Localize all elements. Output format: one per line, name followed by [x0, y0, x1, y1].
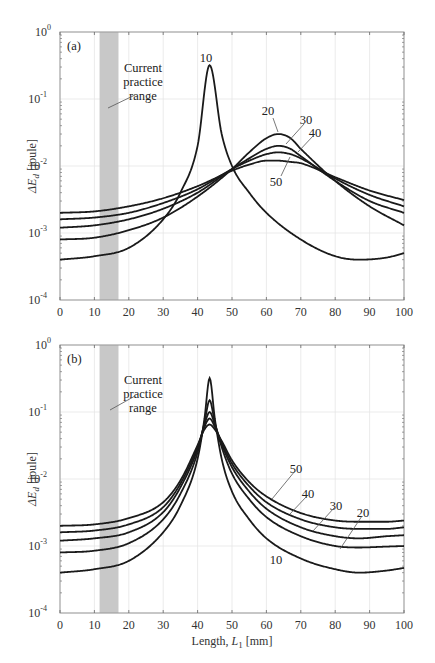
x-tick-label: 0 [57, 305, 63, 319]
series-label-leader [273, 118, 278, 132]
x-tick-label: 100 [395, 305, 413, 319]
current-practice-range-band [100, 345, 119, 613]
x-tick-label: 50 [226, 305, 238, 319]
x-tick-label: 30 [157, 305, 169, 319]
series-label-leader [286, 124, 304, 144]
y-tick-label: 10-3 [28, 537, 47, 553]
y-tick-label: 100 [35, 23, 51, 39]
x-tick-label: 0 [57, 618, 63, 632]
y-tick-label: 10-4 [28, 604, 47, 620]
x-tick-label: 20 [123, 305, 135, 319]
panel-label: (b) [67, 352, 82, 366]
x-tick-label: 90 [364, 305, 376, 319]
series-label-20: 20 [357, 506, 370, 520]
panel-label: (a) [67, 39, 81, 53]
series-label-leader [298, 136, 313, 152]
series-label-40: 40 [309, 126, 322, 140]
series-label-20: 20 [262, 104, 275, 118]
series-label-leader [290, 496, 307, 514]
x-tick-label: 10 [88, 305, 100, 319]
shaded-region-label: Current [124, 61, 163, 75]
x-tick-label: 40 [192, 305, 204, 319]
series-label-40: 40 [302, 487, 315, 501]
x-tick-label: 60 [260, 305, 272, 319]
series-label-10: 10 [200, 51, 213, 65]
series-label-leader [281, 157, 290, 176]
x-axis-label: Length, L1 [mm] [192, 634, 273, 650]
x-tick-label: 60 [260, 618, 272, 632]
y-axis-label: ΔEd [joule] [25, 452, 41, 507]
series-label-50: 50 [290, 462, 303, 476]
x-tick-label: 30 [157, 618, 169, 632]
y-tick-label: 10-1 [28, 90, 47, 106]
shaded-region-label: Current [124, 373, 163, 387]
x-tick-label: 70 [295, 305, 307, 319]
x-tick-label: 20 [123, 618, 135, 632]
series-label-leader [272, 471, 295, 499]
y-tick-label: 10-3 [28, 224, 47, 240]
figure: 010203040506070809010010010-110-210-310-… [0, 0, 435, 663]
y-axis-label: ΔEd [joule] [25, 139, 41, 194]
x-tick-label: 80 [329, 618, 341, 632]
current-practice-range-band [100, 32, 119, 300]
series-label-10: 10 [270, 553, 283, 567]
y-tick-label: 10-1 [28, 403, 47, 419]
x-tick-label: 80 [329, 305, 341, 319]
x-tick-label: 90 [364, 618, 376, 632]
x-tick-label: 10 [88, 618, 100, 632]
series-label-30: 30 [300, 113, 313, 127]
y-tick-label: 100 [35, 336, 51, 352]
x-tick-label: 100 [395, 618, 413, 632]
shaded-region-label: practice [123, 75, 163, 89]
y-tick-label: 10-4 [28, 291, 47, 307]
panel-a: 010203040506070809010010010-110-210-310-… [25, 23, 413, 319]
panel-b: 010203040506070809010010010-110-210-310-… [25, 336, 413, 650]
shaded-region-label: range [129, 401, 157, 415]
x-tick-label: 50 [226, 618, 238, 632]
x-tick-label: 40 [192, 618, 204, 632]
series-label-50: 50 [270, 175, 283, 189]
x-tick-label: 70 [295, 618, 307, 632]
